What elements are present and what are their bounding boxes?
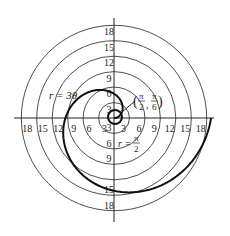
curve-equation-label: r = 3θ <box>49 89 78 101</box>
point-coordinate-label: ( π 2 , π 6 ) <box>133 91 163 112</box>
polar-plot-canvas: 3691215183691518369121518369121518 r = 3… <box>0 0 230 236</box>
tick-label-top-9: 9 <box>107 73 112 84</box>
comma: , <box>146 99 149 110</box>
tick-label-left-15: 15 <box>38 123 48 134</box>
tick-label-left-9: 9 <box>71 123 76 134</box>
tick-label-left-6: 6 <box>87 123 92 134</box>
fraction-denominator: 2 <box>134 144 139 154</box>
tick-label-bottom-3: 3 <box>107 122 112 133</box>
tick-label-right-15: 15 <box>180 123 190 134</box>
tick-label-left-18: 18 <box>22 123 32 134</box>
r-equals: r = <box>118 138 131 149</box>
paren-close: ) <box>158 94 163 110</box>
tick-label-right-18: 18 <box>196 123 206 134</box>
fraction-denominator: 2 <box>139 102 144 112</box>
tick-label-top-12: 12 <box>104 57 114 68</box>
radius-equation-label: r = π 2 <box>118 133 140 154</box>
tick-label-left-12: 12 <box>53 123 63 134</box>
tick-label-top-15: 15 <box>104 42 114 53</box>
tick-label-left-3: 3 <box>102 123 107 134</box>
tick-label-bottom-6: 6 <box>107 138 112 149</box>
tick-label-bottom-9: 9 <box>107 153 112 164</box>
tick-label-top-18: 18 <box>104 26 114 37</box>
tick-label-bottom-18: 18 <box>104 200 114 211</box>
fraction-denominator: 6 <box>152 102 157 112</box>
fraction-numerator: π <box>152 91 157 101</box>
fraction-numerator: π <box>134 133 139 143</box>
tick-label-right-3: 3 <box>121 123 126 134</box>
polar-diagram: 3691215183691518369121518369121518 r = 3… <box>0 0 230 236</box>
fraction-numerator: π <box>139 91 144 101</box>
tick-label-right-12: 12 <box>165 123 175 134</box>
tick-label-right-9: 9 <box>152 123 157 134</box>
tick-label-top-6: 6 <box>107 88 112 99</box>
